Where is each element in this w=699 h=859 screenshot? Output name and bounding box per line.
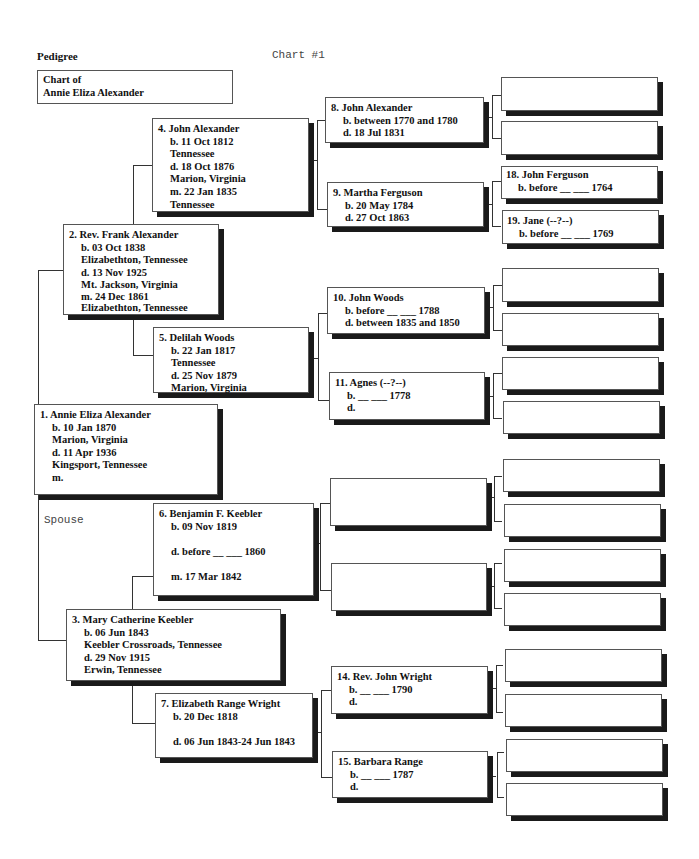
marriage-date: m. 24 Dec 1861 <box>69 292 213 302</box>
connector-line <box>494 521 502 522</box>
person-box-29[interactable] <box>505 694 662 727</box>
birth-date: b. __ ___ 1790 <box>337 684 482 697</box>
connector-line <box>486 497 494 498</box>
person-box-30[interactable] <box>506 739 663 772</box>
chart-of-label: Chart of <box>43 74 227 87</box>
person-box-12[interactable] <box>330 478 487 526</box>
person-box-24[interactable] <box>503 459 660 492</box>
person-box-20[interactable] <box>502 268 659 302</box>
person-name: 19. Jane (--?--) <box>507 215 654 228</box>
birth-date: b. 20 Dec 1818 <box>161 711 307 724</box>
person-box-28[interactable] <box>505 649 662 682</box>
person-box-31[interactable] <box>506 783 663 816</box>
person-box-15[interactable]: 15. Barbara Range b. __ ___ 1787 d. <box>332 751 488 798</box>
birth-date: b. 11 Oct 1812 <box>158 136 303 149</box>
connector-line <box>497 797 504 798</box>
person-box-5[interactable]: 5. Delilah Woods b. 22 Jan 1817 Tennesse… <box>153 327 309 393</box>
person-name: 9. Martha Ferguson <box>333 187 478 200</box>
connector-line <box>497 752 504 753</box>
person-name: 4. John Alexander <box>158 123 303 136</box>
connector-line <box>38 640 66 641</box>
person-name: 1. Annie Eliza Alexander <box>40 409 212 422</box>
connector-line <box>321 690 331 691</box>
death-date: d. 11 Apr 1936 <box>40 447 212 460</box>
person-box-26[interactable] <box>504 549 661 582</box>
death-date: d. 27 Oct 1863 <box>333 212 478 225</box>
person-box-23[interactable] <box>503 401 660 434</box>
death-date: d. 29 Nov 1915 <box>72 652 275 665</box>
birth-date: b. __ ___ 1778 <box>335 390 479 403</box>
person-box-10[interactable]: 10. John Woods b. before __ ___ 1788 d. … <box>327 287 485 334</box>
birth-date: b. 06 Jun 1843 <box>72 627 275 640</box>
death-date: d. <box>337 696 482 709</box>
death-date: d. before __ ___ 1860 <box>159 546 308 559</box>
connector-line <box>132 680 133 723</box>
connector-line <box>494 476 502 477</box>
person-box-17[interactable] <box>501 121 658 155</box>
birth-place: Marion, Virginia <box>40 434 212 447</box>
death-date: d. 18 Oct 1876 <box>158 161 303 174</box>
marriage-date: m. 17 Mar 1842 <box>159 571 308 584</box>
birth-date: b. 09 Nov 1819 <box>159 521 308 534</box>
connector-line <box>494 563 495 608</box>
birth-place: Tennessee <box>159 357 303 370</box>
marriage-place: Tennessee <box>158 199 303 212</box>
birth-date: b. 03 Oct 1838 <box>69 242 213 255</box>
death-place: Marion, Virginia <box>158 173 303 186</box>
birth-date: b. 22 Jan 1817 <box>159 345 303 358</box>
birth-place: Tennessee <box>158 148 303 161</box>
connector-line <box>318 313 319 400</box>
connector-line <box>132 576 133 609</box>
connector-line <box>492 226 501 227</box>
death-date: d. 25 Nov 1879 <box>159 370 303 383</box>
death-place: Kingsport, Tennessee <box>40 459 212 472</box>
person-box-3[interactable]: 3. Mary Catherine Keebler b. 06 Jun 1843… <box>66 609 281 681</box>
person-box-18[interactable]: 18. John Ferguson b. before __ ___ 1764 <box>501 166 658 199</box>
connector-line <box>493 373 502 374</box>
person-name: 14. Rev. John Wright <box>337 671 482 684</box>
person-box-27[interactable] <box>504 593 661 626</box>
connector-line <box>483 117 492 118</box>
person-box-9[interactable]: 9. Martha Ferguson b. 20 May 1784 d. 27 … <box>327 182 484 227</box>
birth-date: b. before __ ___ 1769 <box>507 228 654 241</box>
death-date: d. <box>335 402 479 415</box>
person-box-6[interactable]: 6. Benjamin F. Keebler b. 09 Nov 1819 d.… <box>153 503 314 596</box>
birth-date: b. 20 May 1784 <box>333 200 478 213</box>
connector-line <box>496 665 503 666</box>
connector-line <box>312 732 321 733</box>
death-place: Marion, Virginia <box>159 382 303 395</box>
death-date: d. 18 Jul 1831 <box>331 127 478 140</box>
connector-line <box>133 315 134 355</box>
connector-line <box>321 690 322 777</box>
person-box-14[interactable]: 14. Rev. John Wright b. __ ___ 1790 d. <box>331 666 488 714</box>
person-box-21[interactable] <box>502 313 659 346</box>
death-place: Erwin, Tennessee <box>72 664 275 677</box>
connector-line <box>308 358 318 359</box>
death-date: d. 13 Nov 1925 <box>69 267 213 280</box>
person-box-16[interactable] <box>501 77 658 111</box>
connector-line <box>313 543 320 544</box>
death-date: d. between 1835 and 1850 <box>333 317 479 330</box>
person-box-13[interactable] <box>331 563 487 611</box>
marriage-date: m. 22 Jan 1835 <box>158 186 303 199</box>
death-date: d. 06 Jun 1843-24 Jun 1843 <box>161 736 307 749</box>
person-box-2[interactable]: 2. Rev. Frank Alexander b. 03 Oct 1838 E… <box>63 224 219 315</box>
person-box-7[interactable]: 7. Elizabeth Range Wright b. 20 Dec 1818… <box>155 693 313 758</box>
connector-line <box>492 181 493 226</box>
person-box-22[interactable] <box>502 357 659 390</box>
connector-line <box>492 95 493 138</box>
person-box-1[interactable]: 1. Annie Eliza Alexander b. 10 Jan 1870 … <box>34 404 218 495</box>
person-name: 15. Barbara Range <box>338 756 482 769</box>
spouse-label: Spouse <box>44 514 84 526</box>
birth-place: Keebler Crossroads, Tennessee <box>72 639 275 652</box>
connector-line <box>318 313 327 314</box>
person-box-25[interactable] <box>504 504 661 537</box>
person-box-4[interactable]: 4. John Alexander b. 11 Oct 1812 Tenness… <box>152 118 309 212</box>
connector-line <box>38 270 63 271</box>
connector-line <box>492 138 501 139</box>
person-box-11[interactable]: 11. Agnes (--?--) b. __ ___ 1778 d. <box>329 372 485 420</box>
connector-line <box>133 355 153 356</box>
connector-line <box>497 752 498 797</box>
person-box-8[interactable]: 8. John Alexander b. between 1770 and 17… <box>325 97 484 143</box>
person-box-19[interactable]: 19. Jane (--?--) b. before __ ___ 1769 <box>502 210 659 244</box>
